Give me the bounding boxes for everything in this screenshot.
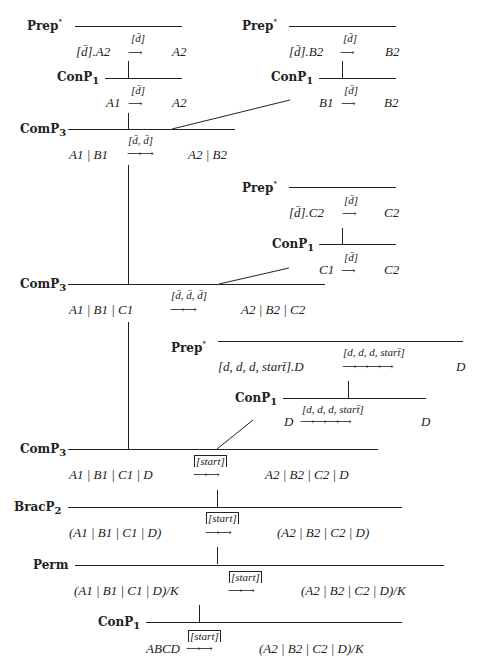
arrow-icon: ⟶ xyxy=(341,265,355,276)
connector-vertical xyxy=(342,228,343,245)
rule-label-con-b: ConP1 xyxy=(271,70,313,86)
arrow-icon: ⟶⟶ xyxy=(127,148,152,159)
inference-line-con-c xyxy=(319,244,396,245)
inference-line-com-abc xyxy=(68,284,325,285)
rule-label-prep-c: Prep* xyxy=(242,180,277,195)
rule-label-perm: Perm xyxy=(33,558,68,572)
lhs-prep-b: [d̄].B2 xyxy=(289,44,323,60)
arrow-icon: ⟶⟶ xyxy=(205,527,230,538)
rule-label-prep-b: Prep* xyxy=(242,18,277,33)
action-con-root: [start] xyxy=(188,630,221,642)
arrow-icon: ⟶ xyxy=(128,98,142,109)
lhs-perm: (A1 | B1 | C1 | D)/K xyxy=(74,583,179,599)
action-brac: [start] xyxy=(206,512,239,524)
inference-line-prep-c xyxy=(289,187,396,188)
rule-label-con-root: ConP1 xyxy=(98,615,140,631)
lhs-con-d: D xyxy=(284,414,293,430)
rhs-prep-b: B2 xyxy=(385,44,399,60)
inference-line-con-root xyxy=(146,622,402,623)
connector-vertical xyxy=(128,61,129,78)
inference-line-perm xyxy=(75,565,444,566)
lhs-prep-c: [d̄].C2 xyxy=(289,205,324,221)
connector-vertical xyxy=(128,113,129,129)
arrow-icon: ⟶⟶ xyxy=(170,304,195,315)
inference-line-brac xyxy=(68,507,402,508)
connector-vertical xyxy=(342,61,343,78)
inference-line-con-a xyxy=(105,78,182,79)
rhs-prep-d: D xyxy=(456,359,465,375)
lhs-con-root: ABCD xyxy=(146,641,180,657)
rule-label-con-d: ConP1 xyxy=(235,391,277,407)
lhs-con-a: A1 xyxy=(106,95,120,111)
action-com-abc: [d̄, d̄, d̄] xyxy=(171,289,207,301)
action-com-abcd: [start] xyxy=(194,455,227,467)
inference-line-com-ab xyxy=(68,129,235,130)
action-prep-c: [d̄] xyxy=(344,194,358,206)
connector-vertical xyxy=(128,322,129,449)
lhs-prep-a: [d̄].A2 xyxy=(76,44,110,60)
inference-line-com-abcd xyxy=(68,449,378,450)
lhs-com-ab: A1 | B1 xyxy=(69,147,108,163)
lhs-con-c: C1 xyxy=(319,262,334,278)
lhs-com-abcd: A1 | B1 | C1 | D xyxy=(69,467,153,483)
arrow-icon: ⟶⟶ xyxy=(193,469,218,480)
rhs-con-a: A2 xyxy=(172,95,186,111)
lhs-con-b: B1 xyxy=(319,95,333,111)
rule-label-com-ab: ComP3 xyxy=(20,122,66,138)
rule-label-brac: BracP2 xyxy=(14,500,62,516)
arrow-icon: ⟶ xyxy=(128,47,142,58)
arrow-icon: ⟶⟶ xyxy=(186,643,211,654)
connector-vertical xyxy=(217,490,218,507)
arrow-icon: ⟶ xyxy=(342,208,356,219)
rhs-com-abc: A2 | B2 | C2 xyxy=(241,302,305,318)
inference-line-prep-d xyxy=(218,341,463,342)
rhs-brac: (A2 | B2 | C2 | D) xyxy=(277,525,369,541)
rhs-con-root: (A2 | B2 | C2 | D)/K xyxy=(259,641,364,657)
action-prep-b: [d̄] xyxy=(343,32,357,44)
rhs-prep-a: A2 xyxy=(172,44,186,60)
rule-label-prep-d: Prep* xyxy=(171,340,206,355)
rule-label-con-a: ConP1 xyxy=(57,70,99,86)
arrow-icon: ⟶⟶⟶⟶ xyxy=(300,416,349,427)
action-prep-a: [d̄] xyxy=(131,32,145,44)
rhs-con-d: D xyxy=(421,414,430,430)
rhs-con-b: B2 xyxy=(384,95,398,111)
action-con-d: [d, d, d, start̄] xyxy=(302,403,364,415)
lhs-brac: (A1 | B1 | C1 | D) xyxy=(69,525,161,541)
connector-vertical xyxy=(128,165,129,284)
arrow-icon: ⟶ xyxy=(340,47,354,58)
rhs-perm: (A2 | B2 | C2 | D)/K xyxy=(301,583,406,599)
rule-label-prep-a: Prep* xyxy=(27,18,62,33)
lhs-com-abc: A1 | B1 | C1 xyxy=(69,302,133,318)
inference-line-con-d xyxy=(283,398,426,399)
rule-label-con-c: ConP1 xyxy=(272,237,314,253)
action-com-ab: [d̄, d̄] xyxy=(128,134,153,146)
connector-vertical xyxy=(348,381,349,398)
action-con-a: [d̄] xyxy=(131,84,145,96)
rhs-prep-c: C2 xyxy=(384,205,399,221)
lhs-prep-d: [d, d, d, start̄].D xyxy=(218,359,304,375)
action-con-c: [d̄] xyxy=(344,251,358,263)
arrow-icon: ⟶⟶ xyxy=(228,585,253,596)
rhs-con-c: C2 xyxy=(384,262,399,278)
arrow-icon: ⟶ xyxy=(341,98,355,109)
action-perm: [start] xyxy=(229,571,262,583)
rule-label-com-abcd: ComP3 xyxy=(20,442,66,458)
connector-vertical xyxy=(199,605,200,622)
rhs-com-abcd: A2 | B2 | C2 | D xyxy=(265,467,349,483)
arrow-icon: ⟶⟶⟶⟶ xyxy=(342,361,391,372)
inference-line-con-b xyxy=(319,78,396,79)
inference-line-prep-a xyxy=(75,26,182,27)
rhs-com-ab: A2 | B2 xyxy=(188,147,227,163)
action-con-b: [d̄] xyxy=(344,84,358,96)
rule-label-com-abc: ComP3 xyxy=(20,277,66,293)
connector-vertical xyxy=(217,547,218,564)
action-prep-d: [d, d, d, start̄] xyxy=(343,346,405,358)
inference-line-prep-b xyxy=(289,26,396,27)
